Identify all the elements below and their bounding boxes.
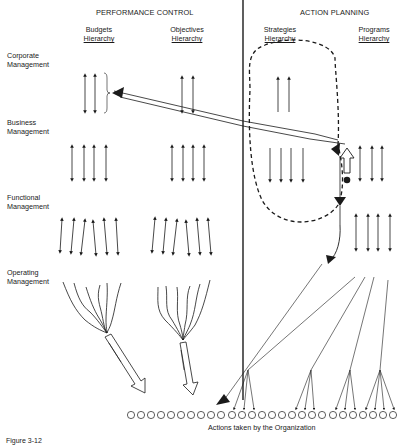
functional-objectives-arrows (152, 218, 211, 255)
corporate-budgets-brace (104, 73, 110, 113)
operating-budgets-hollow-arrow (105, 334, 145, 393)
operating-objectives-fan (158, 280, 210, 340)
operating-objectives-hollow-arrow (180, 342, 198, 395)
corporate-budgets-arrows (85, 75, 95, 112)
programs-to-actions-lines (224, 264, 388, 400)
action-fan-arrows (234, 370, 394, 409)
actions-big-arrowhead (216, 394, 230, 405)
operating-budgets-fan (63, 282, 121, 333)
strategies-dashed-loop (249, 40, 342, 222)
corporate-objectives-arrows (182, 77, 193, 112)
origin-dot (344, 177, 351, 184)
down-arrowhead (334, 197, 346, 206)
functional-programs-arrows (356, 215, 390, 250)
business-objectives-arrows (172, 146, 204, 180)
business-budgets-arrows (72, 146, 106, 180)
business-programs-arrows (360, 147, 382, 180)
feedback-arrowhead (112, 87, 124, 98)
action-circles (127, 411, 396, 418)
hollow-up-arrow (340, 148, 354, 173)
business-strategies-arrows (270, 148, 303, 181)
loop-entry-arrowhead (331, 143, 340, 156)
feedback-double-line (114, 91, 338, 140)
corporate-strategies-arrows (278, 78, 289, 112)
strategies-to-operating-curve (330, 225, 340, 260)
functional-budgets-arrows (60, 219, 118, 255)
